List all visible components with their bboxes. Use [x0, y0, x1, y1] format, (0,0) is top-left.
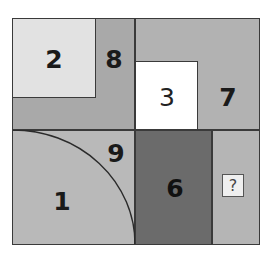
label-3: 3 [159, 85, 175, 110]
label-7: 7 [219, 85, 236, 110]
label-8: 8 [105, 47, 122, 72]
label-1: 1 [53, 189, 70, 214]
answer-box[interactable]: ? [222, 174, 244, 197]
label-6: 6 [166, 176, 183, 201]
label-9: 9 [107, 141, 124, 166]
question-mark: ? [229, 178, 238, 194]
vertical-divider-right [211, 130, 213, 244]
label-2: 2 [45, 47, 62, 72]
